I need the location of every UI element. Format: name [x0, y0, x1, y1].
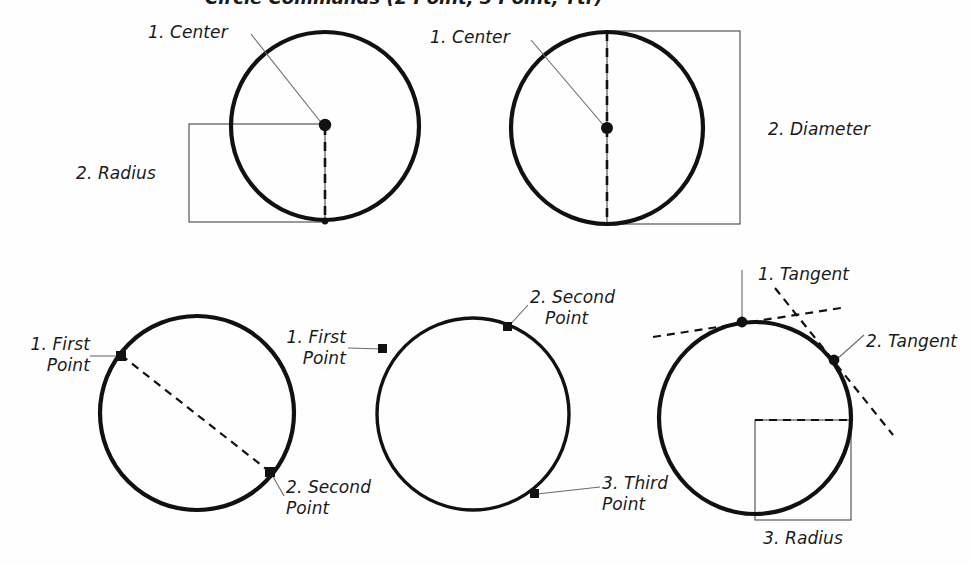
- center-point-dot-2: [601, 122, 613, 134]
- circle-commands-figure: Circle Commands (2 Point, 3 Point, Ttr): [0, 0, 972, 565]
- two-point-chord: [121, 355, 270, 472]
- center-leader-line: [251, 34, 323, 125]
- tangent-point-2-dot: [829, 355, 840, 366]
- diagram-center-radius: [189, 32, 419, 224]
- label-center-2: 1. Center: [430, 27, 510, 48]
- radius-endpoint-dot: [322, 218, 329, 225]
- radius-bracket-rect: [189, 124, 325, 222]
- tangent-2-leader: [836, 335, 864, 360]
- tangent-point-1-dot: [737, 317, 748, 328]
- first-point-marker-3p: [378, 344, 387, 353]
- circle-three-point: [377, 318, 569, 510]
- label-second-point-3p-line2: Point: [545, 308, 588, 329]
- label-second-point-3p-line1: 2. Second: [530, 287, 615, 308]
- label-tangent-2: 2. Tangent: [866, 331, 957, 352]
- third-point-leader-3p: [537, 487, 600, 494]
- diagram-ttr: [653, 270, 893, 520]
- center-leader-line-2: [531, 40, 605, 127]
- first-point-leader-3p: [348, 348, 382, 349]
- diagram-three-point: [348, 305, 600, 510]
- third-point-marker-3p: [530, 489, 539, 498]
- label-second-point-2p-line2: Point: [286, 498, 329, 519]
- label-radius: 2. Radius: [76, 163, 156, 184]
- label-first-point-3p-line2: Point: [232, 348, 346, 369]
- center-point-dot: [319, 119, 331, 131]
- diagram-center-diameter: [511, 31, 740, 224]
- label-first-point-2p-line1: 1. First: [0, 334, 90, 355]
- label-diameter: 2. Diameter: [768, 119, 870, 140]
- label-third-point-3p-line1: 3. Third: [602, 473, 668, 494]
- label-center-1: 1. Center: [148, 22, 228, 43]
- label-first-point-2p-line2: Point: [0, 355, 90, 376]
- second-point-marker: [265, 467, 275, 477]
- label-tangent-1: 1. Tangent: [758, 264, 849, 285]
- second-point-marker-3p: [503, 322, 512, 331]
- label-first-point-3p-line1: 1. First: [232, 327, 346, 348]
- label-radius-ttr: 3. Radius: [738, 528, 868, 549]
- first-point-marker: [116, 351, 126, 361]
- label-second-point-2p-line1: 2. Second: [286, 477, 371, 498]
- label-third-point-3p-line2: Point: [602, 494, 645, 515]
